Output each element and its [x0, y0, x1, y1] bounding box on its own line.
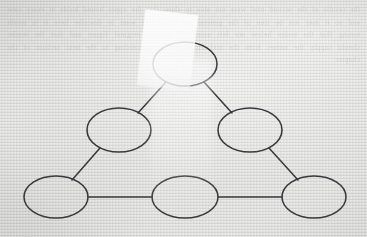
- node-link-diagram: [0, 0, 367, 237]
- node-mid-right[interactable]: [218, 108, 282, 152]
- edges-layer: [72, 82, 298, 197]
- node-bottom-right[interactable]: [282, 176, 346, 218]
- edge-mid-right-to-bottom-right: [269, 148, 298, 180]
- node-mid-left[interactable]: [87, 108, 151, 152]
- node-top[interactable]: [153, 42, 217, 86]
- nodes-layer: [24, 42, 346, 218]
- edge-top-to-mid-right: [204, 82, 232, 113]
- node-bottom-mid[interactable]: [152, 176, 218, 218]
- node-bottom-left[interactable]: [24, 176, 88, 218]
- edge-top-to-mid-left: [138, 82, 166, 113]
- scanned-page: the results of the second trial were not…: [0, 0, 367, 237]
- edge-mid-left-to-bottom-left: [72, 148, 100, 180]
